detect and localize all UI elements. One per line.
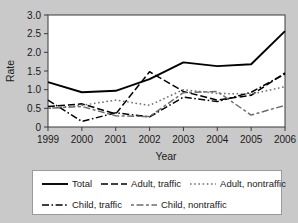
y-tick-label: 2.5 <box>27 28 41 39</box>
y-axis-ticks <box>44 15 48 127</box>
x-tick-label: 1999 <box>37 134 60 145</box>
legend-label: Child, traffic <box>72 200 122 210</box>
legend-label: Total <box>72 179 92 189</box>
chart-legend: TotalAdult, trafficAdult, nontrafficChil… <box>32 170 282 215</box>
legend-item-3[interactable]: Child, traffic <box>42 200 122 210</box>
legend-item-2[interactable]: Adult, nontraffic <box>190 179 286 189</box>
y-axis-title: Rate <box>4 60 16 82</box>
y-tick-label: 1.0 <box>27 84 41 95</box>
legend-label: Adult, traffic <box>131 179 181 189</box>
line-chart: 00.51.01.52.02.53.0 19992000200120022003… <box>0 0 298 168</box>
legend-key-icon <box>42 200 68 210</box>
y-tick-label: 0 <box>35 122 41 133</box>
legend-label: Adult, nontraffic <box>220 179 286 189</box>
legend-key-icon <box>101 179 127 189</box>
x-tick-label: 2002 <box>138 134 161 145</box>
y-axis-tick-labels: 00.51.01.52.02.53.0 <box>27 10 41 133</box>
x-axis-ticks <box>48 127 285 131</box>
legend-key-icon <box>42 179 68 189</box>
x-tick-label: 2006 <box>274 134 297 145</box>
x-tick-label: 2005 <box>240 134 263 145</box>
legend-item-4[interactable]: Child, nontraffic <box>131 200 227 210</box>
x-tick-label: 2003 <box>172 134 195 145</box>
legend-key-icon <box>131 200 157 210</box>
x-tick-label: 2001 <box>105 134 128 145</box>
plot-area-wrapper: 00.51.01.52.02.53.0 19992000200120022003… <box>0 0 298 168</box>
chart-figure: 00.51.01.52.02.53.0 19992000200120022003… <box>0 0 298 223</box>
legend-item-0[interactable]: Total <box>42 179 92 189</box>
legend-row: TotalAdult, trafficAdult, nontraffic <box>33 173 281 194</box>
legend-item-1[interactable]: Adult, traffic <box>101 179 181 189</box>
legend-label: Child, nontraffic <box>161 200 227 210</box>
x-axis-tick-labels: 19992000200120022003200420052006 <box>37 134 297 145</box>
y-tick-label: 0.5 <box>27 103 41 114</box>
y-tick-label: 1.5 <box>27 66 41 77</box>
legend-key-icon <box>190 179 216 189</box>
x-axis-title: Year <box>155 150 177 162</box>
x-tick-label: 2004 <box>206 134 229 145</box>
y-tick-label: 2.0 <box>27 47 41 58</box>
y-tick-label: 3.0 <box>27 10 41 21</box>
x-tick-label: 2000 <box>71 134 94 145</box>
legend-row: Child, trafficChild, nontraffic <box>33 194 281 215</box>
